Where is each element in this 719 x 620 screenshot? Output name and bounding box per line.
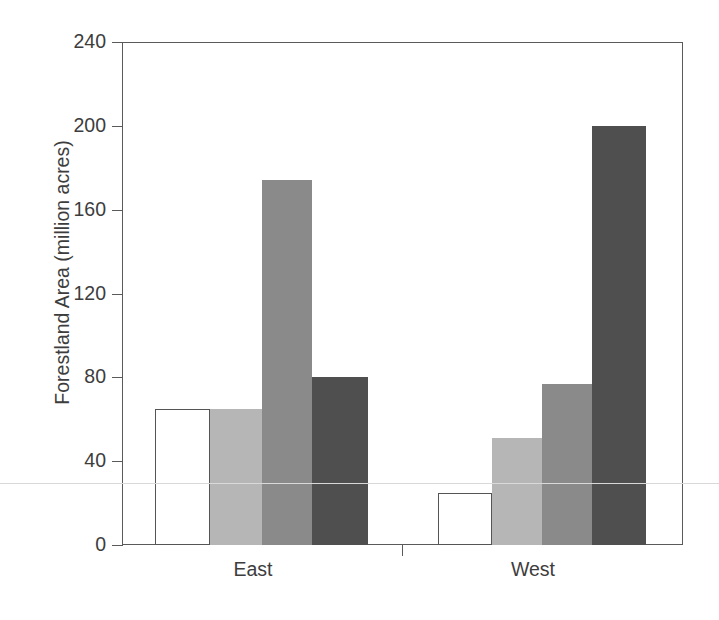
y-tick-80 xyxy=(112,377,123,378)
bar-west-3[interactable] xyxy=(542,384,592,545)
bar-east-1[interactable] xyxy=(155,409,210,545)
x-tick-label-east: East xyxy=(183,560,323,580)
y-tick-label-200: 200 xyxy=(40,116,106,136)
y-tick-label-160: 160 xyxy=(40,200,106,220)
y-tick-label-120: 120 xyxy=(40,284,106,304)
y-tick-160 xyxy=(112,210,123,211)
y-tick-120 xyxy=(112,294,123,295)
x-tick-divider xyxy=(402,545,403,556)
bar-east-3[interactable] xyxy=(262,180,312,545)
y-tick-240 xyxy=(112,42,123,43)
y-tick-0 xyxy=(112,545,123,546)
y-tick-label-40: 40 xyxy=(40,451,106,471)
y-tick-label-240: 240 xyxy=(40,32,106,52)
x-tick-label-west: West xyxy=(463,560,603,580)
y-tick-200 xyxy=(112,126,123,127)
bar-west-1[interactable] xyxy=(438,493,492,545)
bar-east-4[interactable] xyxy=(312,377,368,545)
scan-line-artifact xyxy=(0,483,719,484)
y-tick-40 xyxy=(112,461,123,462)
bar-east-2[interactable] xyxy=(210,409,262,545)
y-tick-label-80: 80 xyxy=(40,367,106,387)
bar-chart-figure: Forestland Area (million acres) 240 200 … xyxy=(0,0,719,620)
y-tick-label-0: 0 xyxy=(40,535,106,555)
bar-west-2[interactable] xyxy=(492,438,542,545)
